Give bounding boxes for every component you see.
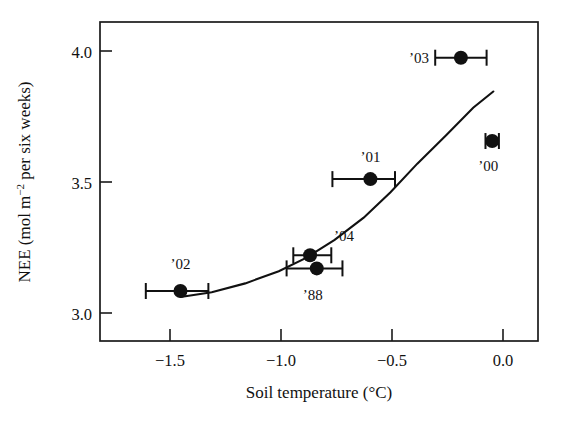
marker-dot[interactable]	[303, 248, 317, 262]
marker-dot[interactable]	[454, 51, 468, 65]
point-label: ’01	[360, 149, 380, 165]
y-axis-title-suffix: per six weeks)	[15, 81, 34, 183]
point-label: ’04	[334, 228, 354, 244]
x-tick-label-0-0: 0.0	[493, 351, 514, 370]
y-axis-title-prefix: NEE (mol m	[15, 196, 34, 283]
y-axis-title: NEE (mol m−2 per six weeks)	[14, 81, 34, 282]
y-tick-label-3-0: 3.0	[71, 305, 92, 324]
y-tick-label-4-0: 4.0	[71, 43, 92, 62]
y-axis-title-superscript: −2	[14, 184, 26, 196]
point-label: ’03	[409, 50, 429, 66]
x-tick-label-neg0-5: −0.5	[377, 351, 407, 370]
point-label: ’00	[478, 158, 498, 174]
marker-dot[interactable]	[485, 134, 499, 148]
marker-dot[interactable]	[173, 284, 187, 298]
x-tick-label-neg1-0: −1.0	[266, 351, 296, 370]
marker-dot[interactable]	[310, 261, 324, 275]
point-label: ’88	[303, 287, 323, 303]
y-tick-label-3-5: 3.5	[71, 174, 92, 193]
x-axis-title: Soil temperature (°C)	[246, 383, 393, 402]
nee-vs-soil-temperature-chart: 4.0 3.5 3.0 −1.5 −1.0 −0.5 0.0 Soil temp…	[0, 0, 565, 422]
x-tick-label-neg1-5: −1.5	[155, 351, 185, 370]
marker-dot[interactable]	[363, 172, 377, 186]
point-label: ’02	[170, 256, 190, 272]
